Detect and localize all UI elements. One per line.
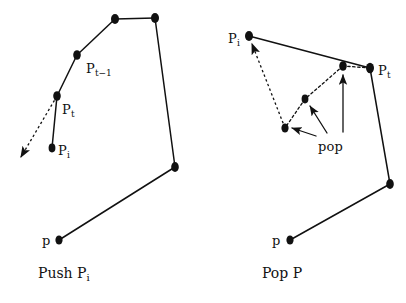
- caption-push-main: Push P: [38, 265, 87, 281]
- pop-callout-arrows: [292, 75, 343, 136]
- vertex-inner-low: [281, 123, 288, 132]
- label-pt-right-sub: t: [387, 70, 391, 80]
- vertex-p: [286, 235, 293, 244]
- edge-pt-to-lowerright: [370, 68, 390, 184]
- vertex-pi: [49, 144, 56, 153]
- vertex-p: [55, 235, 62, 244]
- vertex-pt-minus-1: [73, 50, 81, 60]
- dashed-arrow-to-pi: [252, 44, 285, 128]
- pop-dashed-chain: [285, 66, 370, 128]
- label-pi-main: P: [58, 143, 67, 158]
- edge-pi-to-pt: [249, 36, 370, 68]
- caption-pop-main: Pop P: [262, 265, 302, 281]
- edge-ptminus1-to-pt: [57, 55, 77, 96]
- label-pi: Pi: [58, 144, 70, 157]
- label-pi-right-main: P: [228, 31, 237, 46]
- edge-p-to-right: [59, 167, 175, 240]
- label-pt-right-main: P: [378, 63, 387, 78]
- label-pt-minus-1-sub: t−1: [95, 68, 112, 78]
- figure-root: Pt−1 Pt Pi p Push Pi Pi Pt pop p Pop P: [0, 0, 406, 303]
- pop-arrow-to-inner-mid: [310, 106, 327, 133]
- label-pop-main: pop: [318, 139, 343, 154]
- caption-push-sub: i: [87, 272, 90, 283]
- label-pt-minus-1-main: P: [86, 61, 95, 76]
- label-p-right: p: [272, 234, 281, 247]
- vertex-top-right: [151, 13, 159, 23]
- label-pt-minus-1: Pt−1: [86, 62, 112, 75]
- vertex-inner-top: [339, 61, 347, 71]
- push-hull-edges: [52, 18, 175, 240]
- vertex-inner-mid: [302, 95, 309, 104]
- edge-topright-to-topleft: [115, 18, 155, 19]
- dashed-innertop-to-innermid: [305, 66, 343, 99]
- label-p-main: p: [42, 233, 51, 248]
- caption-pop: Pop P: [262, 266, 302, 280]
- label-pt-right: Pt: [378, 64, 391, 77]
- edge-lowerright-to-p: [290, 184, 390, 240]
- label-p-right-main: p: [272, 233, 281, 248]
- label-pt: Pt: [62, 103, 75, 116]
- push-panel-graphics: [21, 13, 179, 245]
- label-p: p: [42, 234, 51, 247]
- pop-vertex-dots: [245, 31, 394, 245]
- vertex-top-left: [111, 14, 119, 24]
- caption-push: Push Pi: [38, 266, 90, 280]
- vertex-pi: [245, 31, 253, 41]
- label-pt-sub: t: [71, 109, 75, 119]
- label-pi-sub: i: [67, 150, 70, 160]
- edge-right-to-topright: [155, 18, 175, 167]
- vertex-pt: [366, 63, 374, 73]
- label-pt-main: P: [62, 102, 71, 117]
- dashed-innermid-to-innerlow: [285, 99, 305, 128]
- label-pi-right-sub: i: [237, 38, 240, 48]
- vertex-lower-right: [386, 179, 394, 189]
- label-pi-right: Pi: [228, 32, 240, 45]
- pop-arrow-to-inner-low: [292, 128, 316, 136]
- vertex-pt: [53, 91, 61, 101]
- vertex-right: [171, 162, 179, 172]
- label-pop: pop: [318, 140, 343, 153]
- pop-panel-graphics: [245, 31, 394, 245]
- edge-topleft-to-ptminus1: [77, 19, 115, 55]
- edge-pt-to-pi: [52, 96, 57, 148]
